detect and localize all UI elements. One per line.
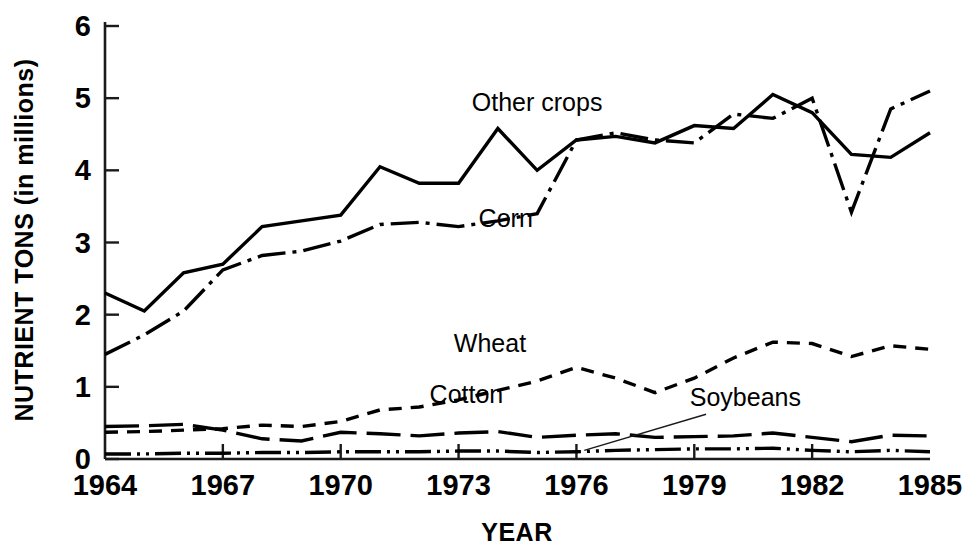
series-label-corn: Corn (479, 204, 533, 232)
x-tick-label-1982: 1982 (780, 469, 845, 501)
series-label-cotton: Cotton (430, 380, 504, 408)
chart-container: 0123456 19641967197019731976197919821985… (0, 0, 966, 552)
y-tick-label-6: 6 (75, 10, 91, 42)
y-tick-label-2: 2 (75, 299, 91, 331)
x-tick-label-1964: 1964 (73, 469, 138, 501)
x-tick-label-1985: 1985 (898, 469, 963, 501)
x-tick-label-1979: 1979 (662, 469, 727, 501)
series-label-soybeans: Soybeans (690, 383, 801, 411)
y-tick-label-1: 1 (75, 371, 91, 403)
x-axis-title: YEAR (481, 518, 552, 546)
y-tick-label-3: 3 (75, 227, 91, 259)
y-tick-label-4: 4 (75, 154, 91, 186)
x-tick-label-1967: 1967 (191, 469, 256, 501)
series-label-wheat: Wheat (454, 329, 526, 357)
y-axis-title: NUTRIENT TONS (in millions) (10, 58, 38, 421)
x-tick-label-1973: 1973 (426, 469, 491, 501)
series-label-other-crops: Other crops (472, 88, 603, 116)
y-tick-label-5: 5 (75, 82, 91, 114)
x-tick-label-1976: 1976 (544, 469, 609, 501)
x-tick-label-1970: 1970 (308, 469, 373, 501)
line-chart: 0123456 19641967197019731976197919821985… (0, 0, 966, 552)
